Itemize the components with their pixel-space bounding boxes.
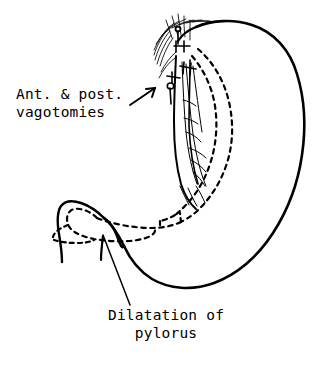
label-pylorus-line2: pylorus (108, 325, 224, 343)
stomach-body-outline (124, 21, 304, 288)
vagotomies-arrow-icon (130, 88, 155, 105)
label-vagotomies: Ant. & post.vagotomies (16, 86, 123, 121)
label-vagotomies-line1: Ant. & post. (16, 86, 123, 102)
lesser-curvature-dashed-outer (181, 49, 232, 222)
ligature-clamps (167, 27, 196, 104)
pylorus-leader-line (103, 235, 130, 305)
anatomical-figure: Ant. & post.vagotomies Dilatation ofpylo… (0, 0, 325, 372)
label-pylorus: Dilatation ofpylorus (108, 307, 224, 342)
lesser-curvature-dashed-inner (175, 56, 216, 215)
label-pylorus-line1: Dilatation of (108, 307, 224, 323)
esophagus-right-wall (189, 60, 198, 184)
antrum-lumen-dashed (97, 218, 181, 228)
duodenal-cap-outline (58, 201, 104, 262)
antrum-lumen-dashed-lower (160, 215, 175, 221)
label-vagotomies-line2: vagotomies (16, 104, 105, 120)
